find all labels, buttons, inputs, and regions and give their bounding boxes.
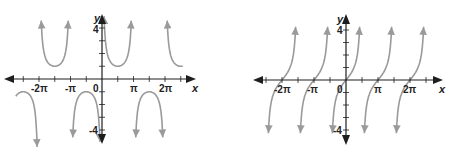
curve-arrow-icon <box>132 129 140 137</box>
curve-branch <box>41 21 68 67</box>
left-y-label-neg4: -4 <box>89 125 98 136</box>
left-tick-label-neg-2pi: -2π <box>31 83 48 94</box>
left-tick-label-zero: 0 <box>93 83 99 94</box>
curve-arrow-icon <box>164 21 172 29</box>
left-y-axis-label: y <box>93 12 101 24</box>
curve-arrow-icon <box>419 27 427 35</box>
curve-arrow-icon <box>355 27 363 35</box>
curve-branch <box>16 92 37 147</box>
right-x-axis-arrow-left-icon <box>253 76 263 84</box>
right-tick-label-2pi: 2π <box>403 84 417 95</box>
right-y-axis-label: y <box>336 13 344 25</box>
figure: -2π -π 0 π 2π 4 -4 y x -2π -π 0 π 2π 4 -… <box>0 0 450 152</box>
right-tick-label-zero: 0 <box>337 84 343 95</box>
curve-arrow-icon <box>33 139 41 147</box>
right-graph: -2π -π 0 π 2π 4 -4 y x <box>253 13 446 145</box>
right-tick-label-pi: π <box>374 84 382 95</box>
left-graph: -2π -π 0 π 2π 4 -4 y x <box>4 12 199 147</box>
left-tick-label-neg-pi: -π <box>65 83 76 94</box>
right-y-label-4: 4 <box>337 25 343 36</box>
left-tick-label-2pi: 2π <box>159 83 173 94</box>
curve-arrow-icon <box>38 21 46 29</box>
right-y-label-neg4: -4 <box>333 125 342 136</box>
right-x-axis-label: x <box>438 83 446 95</box>
curve-arrow-icon <box>291 27 299 35</box>
left-x-axis-label: x <box>191 82 199 94</box>
right-tick-label-neg-pi: -π <box>307 84 318 95</box>
right-y-axis-arrow-down-icon <box>342 135 350 145</box>
curve-branch <box>136 92 163 138</box>
curve-arrow-icon <box>393 125 401 133</box>
left-x-axis-arrow-left-icon <box>4 75 14 83</box>
curve-arrow-icon <box>265 125 273 133</box>
left-tick-label-pi: π <box>130 83 138 94</box>
left-curves <box>16 16 183 147</box>
curve-arrow-icon <box>64 21 72 29</box>
curve-arrow-icon <box>127 21 135 29</box>
right-tick-label-neg-2pi: -2π <box>274 84 291 95</box>
curve-arrow-icon <box>361 125 369 133</box>
curve-arrow-icon <box>297 125 305 133</box>
right-y-axis-arrow-up-icon <box>342 14 350 24</box>
curve-arrow-icon <box>69 129 77 137</box>
left-y-label-4: 4 <box>93 24 99 35</box>
curve-arrow-icon <box>323 27 331 35</box>
curve-arrow-icon <box>387 27 395 35</box>
curve-arrow-icon <box>159 129 167 137</box>
